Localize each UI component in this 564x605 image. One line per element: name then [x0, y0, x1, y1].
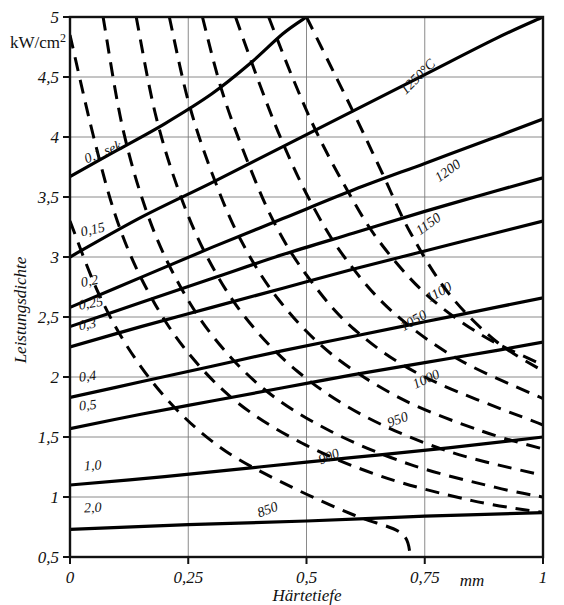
y-tick-label: 0,5: [38, 548, 59, 567]
y-unit-exponent: 2: [60, 31, 66, 45]
x-tick-label: 1: [539, 568, 548, 587]
y-tick-label: 3,5: [37, 188, 59, 207]
y-tick-label: 4: [51, 128, 60, 147]
x-tick-label: 0: [66, 568, 75, 587]
x-tick-label: 0,25: [173, 568, 203, 587]
y-tick-label: 2,5: [38, 308, 59, 327]
curve-label-0-4: 0,4: [78, 368, 97, 385]
y-unit-base: kW/cm: [10, 33, 60, 52]
y-tick-label: 1: [51, 488, 60, 507]
hardening-depth-power-density-chart: 0,511,522,533,544,55 00,250,50,751 0,1 s…: [0, 0, 564, 605]
x-axis-unit-label: mm: [460, 571, 485, 590]
x-tick-label: 0,75: [410, 568, 440, 587]
x-axis-title: Härtetiefe: [272, 586, 342, 605]
y-tick-label: 1,5: [38, 428, 59, 447]
y-tick-label: 3: [50, 248, 60, 267]
curve-label-0-3: 0,3: [78, 316, 98, 334]
curve-label-2-0: 2,0: [84, 500, 102, 516]
y-tick-label: 5: [51, 8, 60, 27]
curve-label-0-5: 0,5: [78, 397, 97, 414]
y-tick-label: 4,5: [38, 68, 59, 87]
curve-label-1-0: 1,0: [83, 457, 102, 473]
chart-container: 0,511,522,533,544,55 00,250,50,751 0,1 s…: [0, 0, 564, 605]
y-axis-title: Leistungsdichte: [11, 256, 30, 364]
y-axis-unit-label: kW/cm2: [10, 31, 66, 52]
y-tick-label: 2: [51, 368, 60, 387]
x-tick-label: 0,5: [296, 568, 317, 587]
